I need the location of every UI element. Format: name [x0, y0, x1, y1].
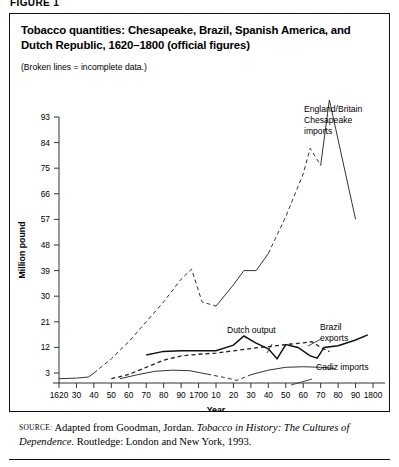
y-tick-label: 93 [41, 112, 51, 122]
source-text-1: Adapted from Goodman, Jordan. [54, 422, 196, 433]
series-path [268, 148, 320, 253]
x-tick-label: 60 [124, 390, 134, 400]
annotation-line: Brazil [320, 322, 342, 332]
series-path [216, 254, 268, 307]
bottom-rule [9, 459, 390, 460]
y-tick-label: 39 [41, 266, 51, 276]
x-axis-title: Year [207, 405, 226, 412]
england-britain-label: England/BritainChesapeakeimports [304, 104, 363, 136]
y-tick-label: 66 [41, 189, 51, 199]
cadiz-imports-leader [291, 379, 312, 385]
x-tick-label: 70 [142, 390, 152, 400]
brazil-exports-label: Brazilexports [320, 322, 348, 343]
y-tick-label: 12 [41, 342, 51, 352]
x-tick-label: 30 [246, 390, 256, 400]
x-tick-label: 60 [299, 390, 309, 400]
chart-plot: 3122130394857667584931620304050607080901… [9, 13, 390, 412]
x-tick-label: 30 [72, 390, 82, 400]
series-path [207, 374, 251, 380]
annotation-line: England/Britain [304, 104, 363, 114]
annotation-line: Dutch output [227, 325, 276, 335]
y-tick-label: 75 [41, 163, 51, 173]
series-path [94, 269, 216, 373]
x-tick-label: 10 [211, 390, 221, 400]
source-italic-1: Tobacco in History: The Cultures of [197, 422, 350, 433]
y-tick-label: 57 [41, 214, 51, 224]
annotation-line: Chesapeake [304, 115, 352, 125]
x-tick-label: 1700 [189, 390, 208, 400]
x-tick-label: 90 [176, 390, 186, 400]
figure-label: FIGURE 1 [10, 0, 59, 8]
series-path [59, 373, 94, 379]
dutch-output-label: Dutch output [227, 325, 276, 335]
x-tick-label: 50 [107, 390, 117, 400]
y-tick-label: 30 [41, 291, 51, 301]
cadiz-imports-label: Cadiz imports [316, 362, 369, 372]
annotation-line: Cadiz imports [316, 362, 369, 372]
x-tick-label: 40 [89, 390, 99, 400]
x-tick-label: 70 [316, 390, 326, 400]
series-path [120, 370, 207, 379]
y-tick-label: 3 [45, 368, 50, 378]
y-axis-title: Million pound [17, 221, 27, 278]
source-text-2: . Routledge: London and New York, 1993. [71, 436, 251, 447]
x-tick-label: 20 [229, 390, 239, 400]
x-tick-label: 40 [264, 390, 274, 400]
y-tick-label: 48 [41, 240, 51, 250]
x-tick-label: 1620 [50, 390, 69, 400]
x-tick-label: 50 [281, 390, 291, 400]
x-tick-label: 90 [351, 390, 361, 400]
annotation-line: imports [304, 126, 332, 136]
y-tick-label: 21 [41, 317, 51, 327]
source-note: source: Adapted from Goodman, Jordan. To… [19, 421, 381, 449]
source-italic-2: Dependence [19, 436, 71, 447]
x-tick-label: 80 [159, 390, 169, 400]
source-label: source: [19, 423, 52, 432]
x-tick-label: 80 [333, 390, 343, 400]
annotation-line: exports [320, 333, 348, 343]
y-tick-label: 84 [41, 138, 51, 148]
figure-container: FIGURE 1 Tobacco quantities: Chesapeake,… [0, 0, 399, 467]
x-tick-label: 1800 [364, 390, 383, 400]
